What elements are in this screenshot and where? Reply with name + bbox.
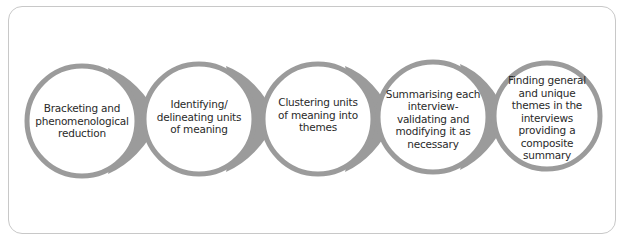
step-3-line-1: Clustering units (278, 96, 358, 109)
step-5-line-1: Finding general (508, 74, 586, 87)
step-1-line-2: phenomenological (35, 115, 128, 128)
step-3-line-2: of meaning into (278, 109, 358, 122)
step-2-line-1: Identifying/ (157, 98, 242, 111)
step-1-line-3: reduction (35, 127, 128, 140)
step-5-line-2: and unique (508, 87, 586, 100)
step-5-line-7: summary (508, 149, 586, 162)
step-1-line-1: Bracketing and (35, 102, 128, 115)
step-5-line-6: composite (508, 137, 586, 150)
step-4-line-3: validating and (386, 113, 481, 126)
step-2-line-3: of meaning (157, 123, 242, 136)
step-4-line-5: necessary (386, 138, 481, 151)
step-label-5: Finding general and unique themes in the… (499, 66, 595, 170)
step-4-line-4: modifying it as (386, 125, 481, 138)
step-label-1: Bracketing and phenomenological reductio… (32, 70, 132, 172)
step-4-line-1: Summarising each (386, 88, 481, 101)
step-label-3: Clustering units of meaning into themes (268, 64, 368, 166)
step-label-4: Summarising each interview- validating a… (381, 68, 485, 170)
step-5-line-5: providing a (508, 124, 586, 137)
step-2-line-2: delineating units (157, 111, 242, 124)
step-5-line-4: interviews (508, 112, 586, 125)
step-label-2: Identifying/ delineating units of meanin… (149, 66, 249, 168)
step-3-line-3: themes (278, 121, 358, 134)
step-5-line-3: themes in the (508, 99, 586, 112)
step-4-line-2: interview- (386, 100, 481, 113)
